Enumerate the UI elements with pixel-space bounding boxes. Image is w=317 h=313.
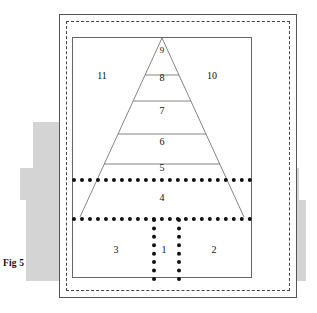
pyramid-band-label-5: 5 xyxy=(160,163,165,173)
pyramid-band-label-9: 9 xyxy=(160,46,165,55)
pyramid-right-slope xyxy=(162,38,244,217)
gray-block-left-upper-step xyxy=(33,122,60,168)
pyramid-band-label-4: 4 xyxy=(160,193,165,203)
dotted-rule-upper xyxy=(72,178,252,182)
dotted-divider-left xyxy=(152,218,156,281)
pyramid-side-label-11: 11 xyxy=(97,71,107,81)
dotted-divider-right xyxy=(177,218,181,281)
figure-caption: Fig 5 xyxy=(3,258,24,268)
dotted-rule-lower xyxy=(72,217,252,221)
gray-block-left-bottom-step xyxy=(26,200,60,281)
pyramid-band-label-6: 6 xyxy=(160,137,165,147)
pyramid-left-slope xyxy=(80,38,162,217)
gray-block-left-lower-step xyxy=(20,168,60,200)
pyramid-side-label-10: 10 xyxy=(207,71,217,81)
base-cell-label-3: 3 xyxy=(114,245,119,255)
pyramid-band-label-8: 8 xyxy=(160,73,165,83)
pyramid-band-label-7: 7 xyxy=(160,106,165,116)
figure-canvas: 9 8 7 6 5 4 11 10 3 1 2 Fig 5 xyxy=(0,0,317,313)
base-cell-label-2: 2 xyxy=(212,245,217,255)
base-cell-label-1: 1 xyxy=(162,245,167,255)
